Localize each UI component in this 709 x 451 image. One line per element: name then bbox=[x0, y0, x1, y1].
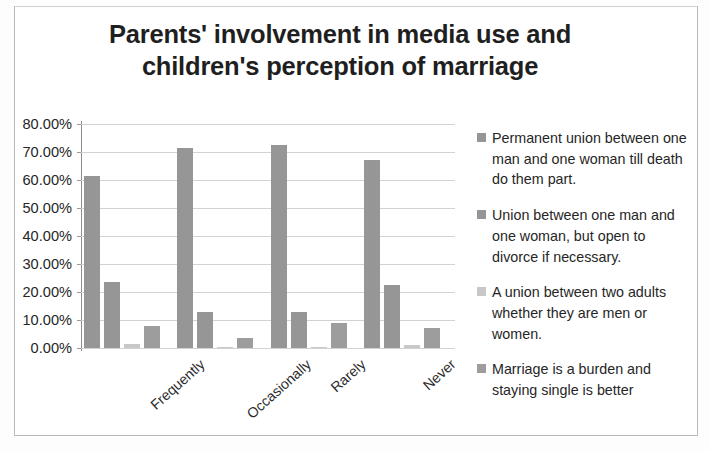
legend-item[interactable]: A union between two adults whether they … bbox=[477, 282, 695, 344]
y-axis-tick-label: 50.00% bbox=[0, 200, 72, 216]
legend-label: A union between two adults whether they … bbox=[492, 282, 695, 344]
legend-label: Union between one man and one woman, but… bbox=[492, 205, 695, 267]
chart-screenshot: Parents' involvement in media use and ch… bbox=[0, 0, 709, 451]
legend-swatch-icon bbox=[477, 210, 486, 219]
legend-swatch-icon bbox=[477, 287, 486, 296]
legend-swatch-icon bbox=[477, 364, 486, 373]
legend-item[interactable]: Union between one man and one woman, but… bbox=[477, 205, 695, 267]
y-axis-tick-label: 10.00% bbox=[0, 312, 72, 328]
chart-legend: Permanent union between one man and one … bbox=[477, 128, 695, 416]
y-axis-tick-label: 80.00% bbox=[0, 116, 72, 132]
y-axis-tick-label: 40.00% bbox=[0, 228, 72, 244]
legend-swatch-icon bbox=[477, 133, 486, 142]
y-axis-tick-label: 20.00% bbox=[0, 284, 72, 300]
y-axis-tick-label: 0.00% bbox=[0, 340, 72, 356]
legend-label: Marriage is a burden and staying single … bbox=[492, 359, 695, 400]
legend-item[interactable]: Permanent union between one man and one … bbox=[477, 128, 695, 190]
y-axis-tick-label: 60.00% bbox=[0, 172, 72, 188]
y-axis-tick-label: 70.00% bbox=[0, 144, 72, 160]
y-axis-tick-label: 30.00% bbox=[0, 256, 72, 272]
legend-item[interactable]: Marriage is a burden and staying single … bbox=[477, 359, 695, 400]
legend-label: Permanent union between one man and one … bbox=[492, 128, 695, 190]
